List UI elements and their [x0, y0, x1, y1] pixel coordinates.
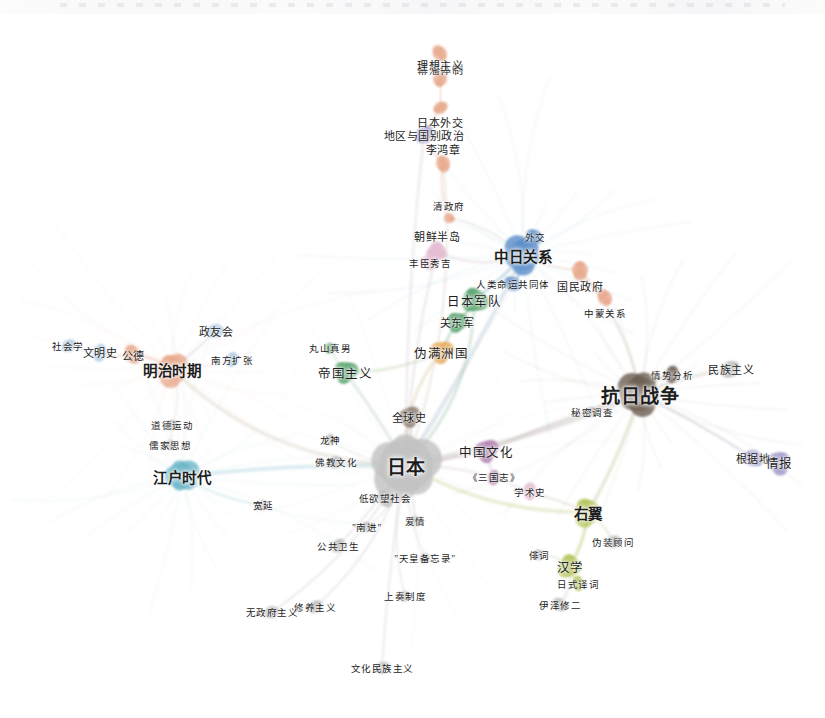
network-svg [0, 0, 825, 718]
node-blob [259, 505, 264, 510]
node-blob [379, 491, 386, 498]
node-blob [612, 536, 621, 545]
node-blob [125, 345, 137, 357]
node-blob [438, 155, 445, 162]
graph-node[interactable] [420, 553, 430, 563]
graph-node[interactable] [400, 591, 410, 601]
graph-node[interactable] [434, 102, 448, 114]
graph-node[interactable] [165, 440, 176, 450]
graph-edge-halo [50, 366, 172, 370]
graph-node[interactable] [399, 406, 420, 427]
node-blob [744, 452, 752, 460]
graph-edge-halo [172, 260, 229, 369]
node-blob [573, 576, 582, 585]
node-blob [504, 277, 515, 288]
node-blob [229, 352, 238, 361]
graph-node[interactable] [375, 662, 390, 674]
graph-node[interactable] [432, 45, 447, 61]
network-graph-canvas: 幕藩体制理想主义日本外交地区与国别政治李鸿章清政府朝鲜半岛丰臣秀吉外交中日关系人… [0, 0, 825, 718]
graph-node[interactable] [335, 362, 358, 384]
graph-edge-halo [172, 257, 276, 369]
graph-node[interactable] [767, 452, 789, 476]
graph-node[interactable] [410, 516, 420, 526]
node-blob [434, 107, 440, 113]
node-blob [336, 539, 345, 548]
graph-edge-halo [172, 290, 376, 369]
graph-node[interactable] [721, 361, 739, 378]
node-blob [576, 261, 584, 269]
graph-node[interactable] [744, 450, 763, 466]
node-blob [431, 261, 438, 268]
node-blob [217, 327, 224, 334]
graph-node[interactable] [62, 339, 76, 352]
node-blob [172, 421, 177, 426]
node-blob [420, 557, 425, 562]
node-blob [180, 472, 198, 490]
graph-node[interactable] [362, 522, 372, 532]
graph-node[interactable] [488, 470, 500, 485]
node-blob [767, 454, 779, 466]
node-blob [371, 442, 408, 479]
node-blob [272, 608, 278, 614]
node-blob [450, 322, 461, 333]
node-blob [553, 598, 562, 607]
node-blob [492, 470, 498, 476]
graph-edge-halo [523, 255, 550, 434]
node-blob [436, 69, 447, 80]
node-blob [362, 523, 367, 528]
graph-node[interactable] [523, 482, 537, 500]
graph-node[interactable] [558, 554, 581, 578]
node-blob [67, 339, 76, 348]
node-blob [439, 102, 448, 111]
node-blob [94, 351, 105, 362]
graph-edge-halo [182, 476, 356, 485]
graph-edge-halo [105, 369, 172, 497]
graph-node[interactable] [93, 344, 107, 361]
graph-edge-halo [85, 476, 182, 536]
node-blob [513, 282, 520, 289]
graph-edge-halo [640, 260, 792, 394]
node-blob [415, 520, 420, 525]
node-blob [405, 417, 416, 428]
graph-node[interactable] [125, 345, 141, 364]
node-blob [375, 666, 381, 672]
graph-node[interactable] [325, 343, 335, 353]
graph-node[interactable] [475, 440, 498, 463]
node-blob [336, 458, 342, 464]
node-blob [98, 344, 105, 351]
node-blob [525, 482, 536, 493]
graph-node[interactable] [448, 313, 469, 333]
graph-edge-halo [297, 255, 523, 259]
graph-node[interactable] [325, 434, 335, 445]
graph-node[interactable] [534, 550, 544, 560]
graph-node[interactable] [416, 125, 433, 143]
graph-node[interactable] [258, 500, 268, 510]
node-blob [381, 662, 390, 671]
graph-edge-halo [523, 222, 692, 255]
node-blob [328, 434, 333, 439]
node-blob [632, 373, 655, 396]
graph-node[interactable] [206, 324, 224, 338]
graph-node[interactable] [226, 352, 238, 367]
graph-node[interactable] [618, 373, 660, 417]
node-blob [400, 596, 405, 601]
graph-node[interactable] [444, 213, 455, 223]
node-blob [574, 269, 586, 281]
graph-edge-halo [640, 253, 735, 394]
graph-edge-halo [11, 476, 182, 501]
graph-node[interactable] [164, 460, 199, 490]
graph-edge-halo [523, 200, 654, 255]
node-blob [328, 459, 337, 468]
graph-node[interactable] [572, 576, 584, 591]
graph-edge-halo [522, 76, 550, 255]
node-blob [575, 585, 581, 591]
node-blob [518, 237, 539, 258]
node-blob [607, 541, 613, 547]
graph-node[interactable] [607, 536, 621, 548]
graph-node[interactable] [155, 354, 188, 388]
graph-node[interactable] [309, 600, 323, 613]
graph-node[interactable] [597, 289, 612, 305]
graph-node[interactable] [433, 69, 447, 86]
node-blob [206, 326, 217, 337]
graph-node[interactable] [575, 498, 601, 527]
